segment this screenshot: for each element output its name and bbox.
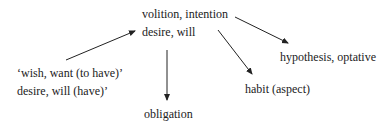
node-obligation: obligation	[144, 107, 193, 121]
node-desire: desire, will	[142, 25, 195, 39]
node-hypothesis: hypothesis, optative	[280, 50, 376, 64]
arrow-desire-to-habit	[218, 30, 252, 74]
arrow-volition-to-hypothesis	[235, 17, 288, 43]
node-desire-have: desire, will (have)’	[17, 84, 108, 98]
node-volition: volition, intention	[142, 7, 228, 21]
node-habit: habit (aspect)	[245, 82, 310, 96]
arrow-wish-to-desire	[66, 31, 135, 60]
node-wish: ‘wish, want (to have)’	[17, 66, 123, 80]
